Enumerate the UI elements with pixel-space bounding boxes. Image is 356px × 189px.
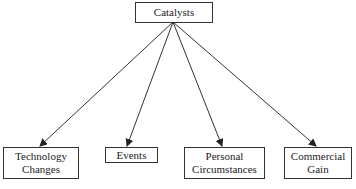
node-catalysts: Catalysts <box>135 2 213 23</box>
edge-catalysts-technology-changes <box>40 22 173 146</box>
edge-catalysts-events <box>127 22 173 146</box>
node-label-line: Changes <box>22 163 60 176</box>
node-label: Catalysts <box>154 6 194 19</box>
edge-catalysts-commercial-gain <box>173 22 316 146</box>
node-label-line: Gain <box>307 163 328 176</box>
node-commercial-gain: Commercial Gain <box>284 147 352 179</box>
node-label-line: Commercial <box>291 150 345 163</box>
edge-catalysts-personal-circumstances <box>173 22 222 146</box>
node-label-line: Circumstances <box>192 163 257 176</box>
node-label-line: Technology <box>15 150 67 163</box>
node-events: Events <box>105 147 158 163</box>
node-personal-circumstances: Personal Circumstances <box>184 147 265 179</box>
node-label: Events <box>117 149 147 162</box>
node-label-line: Personal <box>206 150 244 163</box>
node-technology-changes: Technology Changes <box>3 147 79 179</box>
